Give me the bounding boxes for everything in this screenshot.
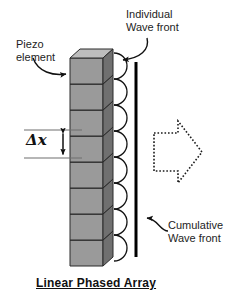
piezo-element-label: Piezo element [16, 38, 55, 64]
piezo-element-cube [70, 49, 113, 84]
spacing-label: Δx [26, 132, 47, 148]
individual-wave-front-label: Individual Wave front [126, 8, 179, 34]
figure-title: Linear Phased Array [36, 276, 156, 290]
cumulative-wave-front-label: Cumulative Wave front [168, 219, 223, 245]
